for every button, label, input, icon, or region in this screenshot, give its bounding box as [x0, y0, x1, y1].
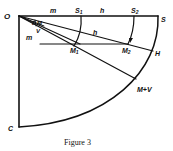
- label-S: S: [161, 16, 166, 23]
- label-H: H: [155, 50, 161, 57]
- label-h-top: h: [100, 7, 104, 14]
- arrow-head-icon: [129, 38, 133, 43]
- label-C: C: [8, 125, 14, 132]
- figure-caption: Figure 3: [64, 138, 91, 147]
- label-M2: M2: [122, 47, 131, 55]
- label-h-mid: h: [93, 29, 97, 36]
- label-O: O: [4, 12, 11, 21]
- label-M1: M1: [70, 47, 79, 55]
- label-m-lower: m: [26, 34, 32, 41]
- label-S2: S2: [131, 7, 139, 15]
- figure-diagram: O m S1 h S2 S E M V m h M1 M2 H M+V C Fi…: [0, 0, 173, 151]
- label-V: V: [36, 28, 41, 34]
- label-S1: S1: [75, 7, 83, 15]
- label-M-plus-V: M+V: [137, 86, 153, 93]
- label-m-top: m: [50, 7, 56, 14]
